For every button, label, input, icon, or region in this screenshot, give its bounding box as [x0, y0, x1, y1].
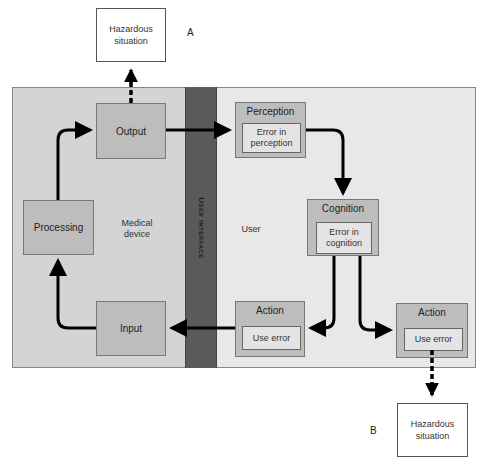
arrow-input-to-processing	[58, 261, 96, 328]
arrow-cognition-to-action-left	[311, 256, 334, 328]
arrow-cognition-to-action-right	[360, 256, 390, 330]
flow-arrows	[0, 0, 489, 463]
arrow-perception-to-cognition	[306, 130, 343, 193]
arrow-processing-to-output	[58, 130, 90, 200]
